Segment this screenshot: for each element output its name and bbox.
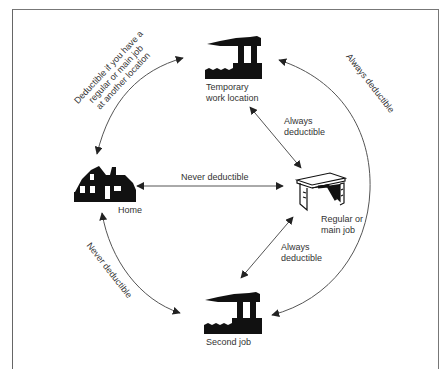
home-second-label: Never deductible (85, 240, 134, 299)
second-job-label: Second job (206, 337, 251, 347)
home-temporary-edge-label: Deductible if you have a regular or main… (72, 29, 159, 120)
regular-label-line2: main job (321, 225, 355, 235)
temporary-second-label: Always deductible (344, 52, 396, 115)
regular-label-line1: Regular or (321, 214, 363, 224)
regular-second-label-line2: deductible (281, 253, 322, 263)
desk-icon (297, 173, 345, 210)
temporary-factory-icon (205, 36, 262, 79)
home-regular-label: Never deductible (181, 172, 249, 182)
temporary-regular-label-line2: deductible (284, 127, 325, 137)
house-icon (74, 166, 136, 202)
temporary-second-edge-label: Always deductible (344, 52, 396, 115)
home-label: Home (118, 205, 142, 215)
arrow-home-second (102, 213, 180, 313)
second-job-factory-icon (204, 292, 262, 334)
temporary-regular-label-line1: Always (284, 116, 313, 126)
temporary-label-line2: work location (205, 93, 259, 103)
regular-second-label-line1: Always (281, 242, 310, 252)
temporary-label-line1: Temporary (206, 82, 249, 92)
home-second-edge-label: Never deductible (85, 240, 134, 299)
